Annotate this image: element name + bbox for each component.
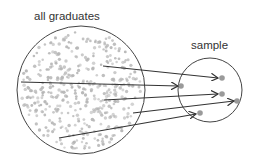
sample-circle	[178, 58, 242, 122]
sampling-diagram	[0, 0, 255, 167]
sampling-arrow	[103, 66, 218, 78]
sampling-arrows	[21, 66, 234, 138]
sampling-arrow	[133, 101, 234, 113]
population-dots	[20, 31, 141, 150]
sample-point	[178, 83, 184, 89]
sample-point	[219, 91, 225, 97]
sample-point	[197, 110, 203, 116]
sample-point	[219, 75, 225, 81]
sample-point	[234, 98, 240, 104]
